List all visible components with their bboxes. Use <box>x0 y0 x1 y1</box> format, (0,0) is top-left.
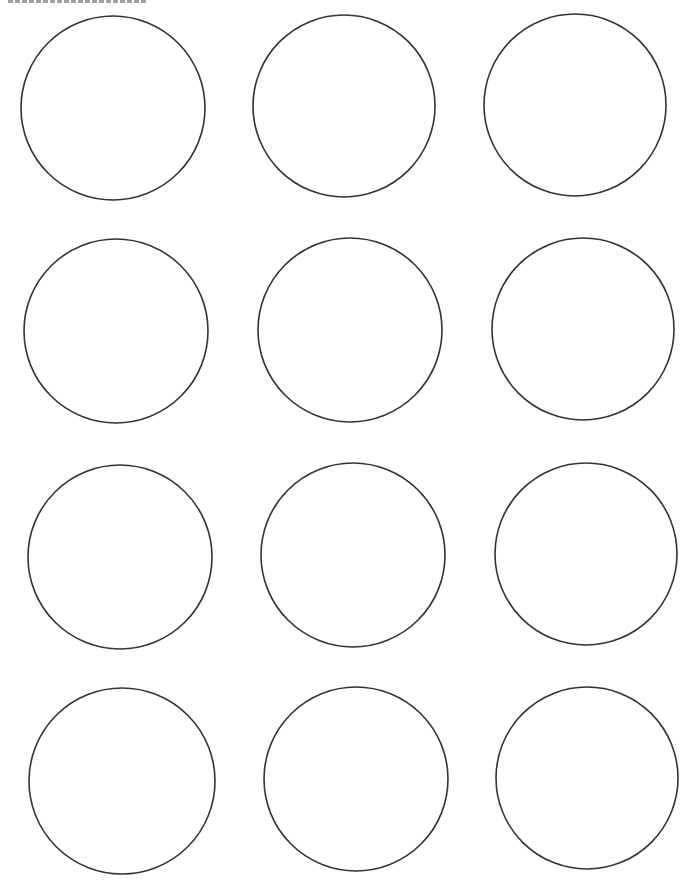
circle-outline-9 <box>495 463 677 645</box>
circle-outline-6 <box>492 238 674 420</box>
circle-outline-11 <box>264 687 448 871</box>
circle-grid <box>21 14 678 874</box>
circle-outline-2 <box>253 15 435 197</box>
circle-outline-7 <box>28 465 212 649</box>
circle-outline-3 <box>484 14 666 196</box>
circle-outline-8 <box>261 463 445 647</box>
circle-outline-10 <box>29 688 215 874</box>
circle-outline-12 <box>496 687 678 869</box>
circle-outline-5 <box>258 238 442 422</box>
circle-outline-4 <box>24 239 208 423</box>
circle-outline-1 <box>21 16 205 200</box>
circle-template-sheet <box>0 0 690 896</box>
